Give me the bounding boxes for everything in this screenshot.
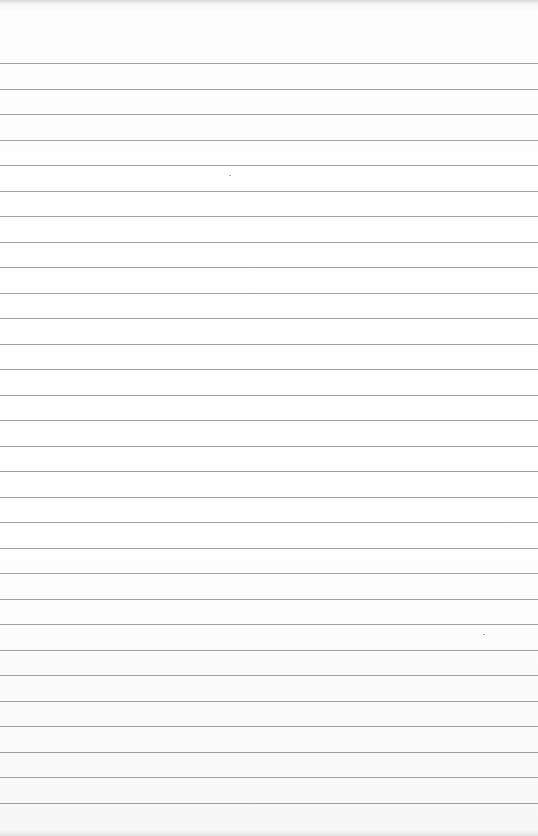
paper-top-edge — [0, 0, 538, 4]
lined-paper-sheet — [0, 0, 538, 836]
ruled-line — [0, 497, 538, 498]
ruled-line — [0, 777, 538, 778]
ruled-line — [0, 114, 538, 115]
ruled-line — [0, 395, 538, 396]
ruled-line — [0, 318, 538, 319]
ruled-line — [0, 675, 538, 676]
ruled-line — [0, 267, 538, 268]
ruled-line — [0, 803, 538, 804]
ruled-line — [0, 191, 538, 192]
paper-speck — [229, 175, 231, 176]
ruled-line — [0, 573, 538, 574]
paper-bottom-edge — [0, 830, 538, 836]
ruled-line — [0, 522, 538, 523]
ruled-line — [0, 216, 538, 217]
ruled-line — [0, 650, 538, 651]
ruled-line — [0, 599, 538, 600]
ruled-line — [0, 293, 538, 294]
ruled-line — [0, 165, 538, 166]
ruled-line — [0, 344, 538, 345]
ruled-line — [0, 471, 538, 472]
ruled-line — [0, 446, 538, 447]
ruled-line — [0, 242, 538, 243]
ruled-line — [0, 548, 538, 549]
ruled-line — [0, 701, 538, 702]
ruled-line — [0, 369, 538, 370]
paper-speck — [483, 634, 485, 635]
ruled-line — [0, 89, 538, 90]
ruled-line — [0, 726, 538, 727]
ruled-line — [0, 140, 538, 141]
ruled-line — [0, 420, 538, 421]
ruled-line — [0, 752, 538, 753]
ruled-line — [0, 63, 538, 64]
ruled-line — [0, 624, 538, 625]
